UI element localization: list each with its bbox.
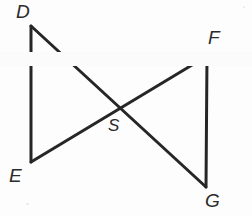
segment-fg <box>206 56 207 187</box>
vertex-label-e: E <box>9 166 22 185</box>
geometry-figure: D E F G S <box>0 0 252 216</box>
vertex-label-s: S <box>108 117 119 134</box>
vertex-label-f: F <box>208 28 220 47</box>
segment-ef <box>31 56 207 162</box>
vertex-label-g: G <box>205 191 220 210</box>
vertex-label-d: D <box>16 2 30 21</box>
segment-dg <box>31 26 206 187</box>
